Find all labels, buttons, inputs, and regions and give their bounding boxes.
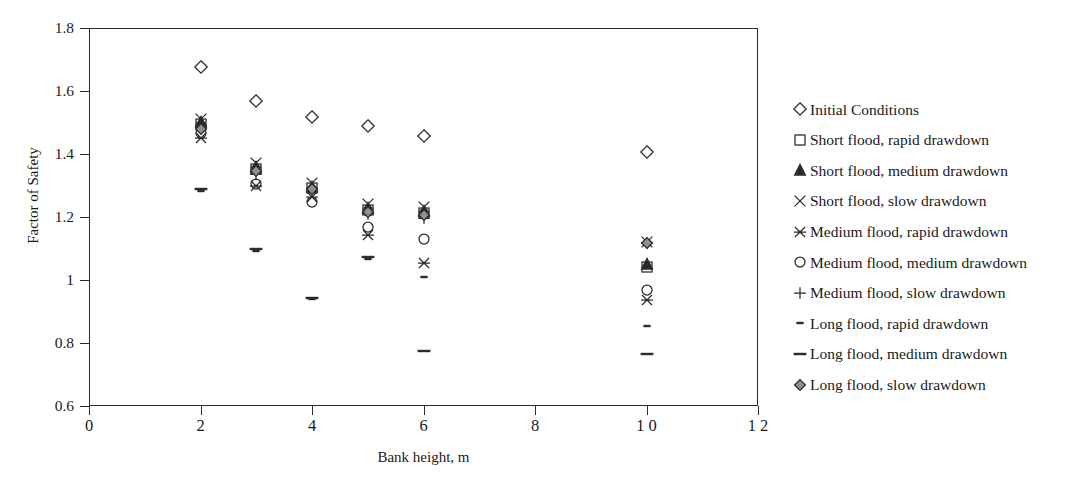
legend-open-circle-icon (790, 252, 810, 272)
legend-item[interactable]: Long flood, medium drawdown (790, 339, 1080, 370)
x-axis-title: Bank height, m (89, 450, 758, 465)
x-tick-mark (312, 406, 313, 415)
y-axis-title: Factor of Safety (26, 106, 41, 286)
legend-item[interactable]: Long flood, rapid drawdown (790, 308, 1080, 339)
x-tick-mark (535, 406, 536, 415)
clipped-header-text (0, 0, 780, 3)
y-tick-mark (80, 343, 89, 344)
y-tick-mark (80, 91, 89, 92)
legend-item-label: Long flood, rapid drawdown (810, 316, 988, 332)
y-tick-label: 0.6 (0, 398, 74, 414)
legend-plus-icon (790, 283, 810, 303)
legend-short-dash-icon (790, 313, 810, 333)
x-tick-mark (201, 406, 202, 415)
legend-item-label: Initial Conditions (810, 102, 919, 118)
legend-asterisk-icon (790, 222, 810, 242)
chart-legend: Initial ConditionsShort flood, rapid dra… (790, 94, 1080, 400)
x-tick-mark (89, 406, 90, 415)
x-tick-label: 0 (59, 418, 119, 435)
scatter-chart-figure: 0.60.811.21.41.61.8 024681 01 2 Bank hei… (0, 0, 1084, 494)
legend-item[interactable]: Short flood, medium drawdown (790, 155, 1080, 186)
x-tick-label: 4 (282, 418, 342, 435)
legend-item-label: Short flood, slow drawdown (810, 193, 987, 209)
legend-item[interactable]: Long flood, slow drawdown (790, 369, 1080, 400)
y-tick-mark (80, 154, 89, 155)
legend-item-label: Long flood, medium drawdown (810, 346, 1007, 362)
x-tick-label: 1 0 (617, 418, 677, 435)
legend-item[interactable]: Medium flood, medium drawdown (790, 247, 1080, 278)
y-tick-mark (80, 217, 89, 218)
legend-item[interactable]: Short flood, rapid drawdown (790, 125, 1080, 156)
legend-filled-diamond-icon (790, 375, 810, 395)
legend-filled-triangle-icon (790, 160, 810, 180)
x-tick-mark (647, 406, 648, 415)
legend-item-label: Short flood, rapid drawdown (810, 132, 989, 148)
legend-item-label: Medium flood, slow drawdown (810, 285, 1005, 301)
legend-x-cross-icon (790, 191, 810, 211)
legend-open-diamond-icon (790, 99, 810, 119)
x-tick-mark (758, 406, 759, 415)
y-tick-mark (80, 406, 89, 407)
legend-item[interactable]: Medium flood, rapid drawdown (790, 216, 1080, 247)
x-tick-mark (424, 406, 425, 415)
legend-long-dash-icon (790, 344, 810, 364)
y-tick-mark (80, 280, 89, 281)
legend-item-label: Long flood, slow drawdown (810, 377, 986, 393)
legend-item-label: Medium flood, medium drawdown (810, 255, 1027, 271)
y-tick-label: 1.8 (0, 20, 74, 36)
legend-item-label: Medium flood, rapid drawdown (810, 224, 1008, 240)
x-tick-label: 2 (171, 418, 231, 435)
legend-open-square-icon (790, 130, 810, 150)
x-tick-label: 8 (505, 418, 565, 435)
x-tick-label: 1 2 (728, 418, 788, 435)
y-tick-label: 1.6 (0, 83, 74, 99)
legend-item[interactable]: Short flood, slow drawdown (790, 186, 1080, 217)
y-tick-label: 0.8 (0, 335, 74, 351)
x-tick-label: 6 (394, 418, 454, 435)
legend-item[interactable]: Initial Conditions (790, 94, 1080, 125)
legend-item[interactable]: Medium flood, slow drawdown (790, 278, 1080, 309)
legend-item-label: Short flood, medium drawdown (810, 163, 1008, 179)
y-tick-mark (80, 28, 89, 29)
